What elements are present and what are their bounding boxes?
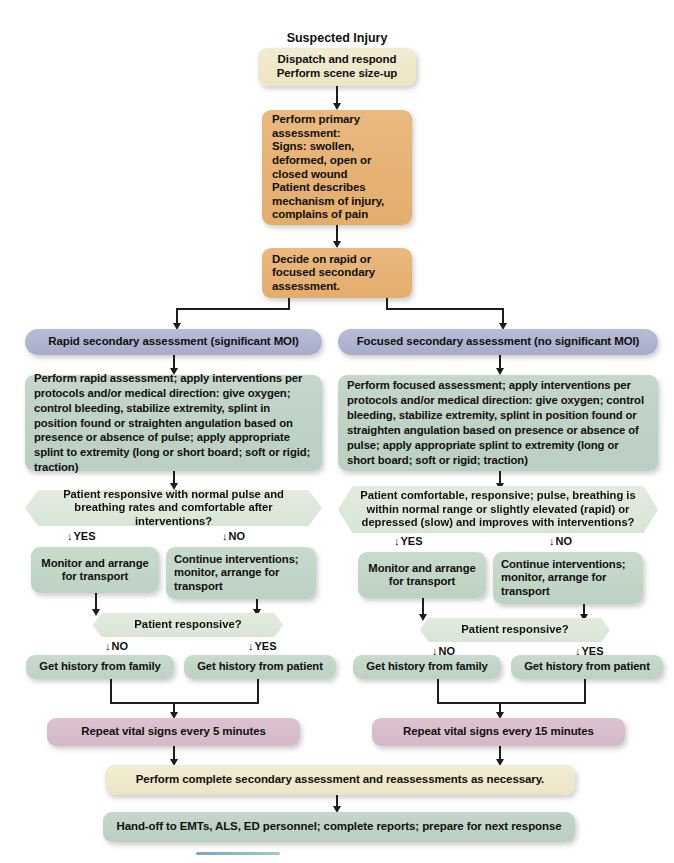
branch-label-responsive-left-yes: ↓YES: [248, 640, 277, 652]
arrowhead-monitor-left: [92, 609, 100, 616]
branch-label-rapid-yes: ↓YES: [67, 530, 96, 542]
node-continue-interventions-left: Continue interventions; monitor, arrange…: [166, 547, 316, 599]
node-repeat-vitals-left-label: Repeat vital signs every 5 minutes: [81, 725, 266, 739]
node-dispatch-respond: Dispatch and respond Perform scene size-…: [258, 48, 416, 86]
node-monitor-arrange-right: Monitor and arrange for transport: [358, 552, 486, 598]
connector-monitor-left-down: [95, 593, 97, 610]
branch-label-focused-no: ↓NO: [549, 535, 572, 547]
node-continue-interventions-right: Continue interventions; monitor, arrange…: [493, 552, 643, 604]
node-history-from-patient-right: Get history from patient: [511, 655, 663, 679]
connector-monitor-right-down: [422, 598, 424, 615]
branch-label-responsive-left-yes-text: YES: [255, 640, 277, 652]
down-arrow-icon: ↓: [394, 535, 400, 547]
connector-decide-left-drop: [176, 308, 178, 324]
decision-focused-patient-status: Patient comfortable, responsive; pulse, …: [338, 486, 658, 533]
connector-vitals-left-down: [173, 746, 175, 760]
branch-label-focused-no-text: NO: [556, 535, 573, 547]
node-handoff-label: Hand-off to EMTs, ALS, ED personnel; com…: [116, 820, 561, 834]
decision-patient-responsive-left: Patient responsive?: [93, 613, 283, 637]
connector-rapid-header-to-perform: [173, 355, 175, 369]
branch-label-rapid-yes-text: YES: [74, 530, 96, 542]
down-arrow-icon: ↓: [105, 640, 111, 652]
connector-primary-to-decide: [336, 225, 338, 242]
node-complete-secondary-assessment: Perform complete secondary assessment an…: [105, 765, 575, 795]
decision-rapid-patient-status-label: Patient responsive with normal pulse and…: [47, 488, 300, 528]
arrowhead-rapid-decision: [170, 483, 178, 490]
node-monitor-arrange-right-label: Monitor and arrange for transport: [365, 562, 479, 589]
decision-patient-responsive-right-label: Patient responsive?: [461, 623, 568, 637]
node-focused-secondary-header-label: Focused secondary assessment (no signifi…: [357, 335, 640, 349]
connector-history-merge-right: [437, 702, 586, 704]
down-arrow-icon: ↓: [222, 530, 228, 542]
branch-label-responsive-left-no: ↓NO: [105, 640, 128, 652]
connector-history-family-left-down: [110, 679, 112, 703]
node-monitor-arrange-left: Monitor and arrange for transport: [31, 547, 159, 593]
node-handoff: Hand-off to EMTs, ALS, ED personnel; com…: [103, 812, 575, 842]
connector-history-merge-left: [110, 702, 259, 704]
node-history-from-patient-right-label: Get history from patient: [524, 660, 650, 673]
node-repeat-vitals-right-label: Repeat vital signs every 15 minutes: [403, 725, 594, 739]
node-continue-interventions-left-label: Continue interventions; monitor, arrange…: [174, 553, 308, 593]
arrowhead-monitor-right: [419, 614, 427, 621]
branch-label-focused-yes: ↓YES: [394, 535, 423, 547]
connector-history-family-right-down: [437, 679, 439, 703]
node-perform-rapid-assessment: Perform rapid assessment; apply interven…: [25, 375, 322, 471]
node-continue-interventions-right-label: Continue interventions; monitor, arrange…: [501, 558, 635, 598]
node-history-from-family-right: Get history from family: [353, 655, 501, 679]
node-repeat-vitals-right: Repeat vital signs every 15 minutes: [372, 718, 625, 746]
connector-focused-header-to-perform: [499, 355, 501, 369]
diagram-title: Suspected Injury: [237, 31, 437, 45]
node-perform-focused-assessment-label: Perform focused assessment; apply interv…: [347, 378, 649, 467]
down-arrow-icon: ↓: [248, 640, 254, 652]
branch-label-rapid-no-text: NO: [229, 530, 246, 542]
branch-label-focused-yes-text: YES: [401, 535, 423, 547]
connector-vitals-right-down: [499, 746, 501, 760]
node-repeat-vitals-left: Repeat vital signs every 5 minutes: [47, 718, 300, 746]
connector-decide-left-horizontal: [176, 308, 290, 310]
node-primary-assessment-label: Perform primary assessment: Signs: swoll…: [272, 113, 402, 222]
node-perform-rapid-assessment-label: Perform rapid assessment; apply interven…: [34, 371, 313, 475]
branch-label-rapid-no: ↓NO: [222, 530, 245, 542]
bottom-decorative-rule: [196, 852, 280, 855]
connector-decide-right-drop: [502, 308, 504, 324]
decision-patient-responsive-left-label: Patient responsive?: [134, 618, 241, 632]
flowchart-canvas: Suspected Injury Dispatch and respond Pe…: [0, 0, 674, 863]
arrowhead-focused-perform: [496, 368, 504, 375]
arrowhead-decide: [333, 241, 341, 248]
node-perform-focused-assessment: Perform focused assessment; apply interv…: [338, 375, 658, 471]
down-arrow-icon: ↓: [67, 530, 73, 542]
arrowhead-primary: [333, 103, 341, 110]
node-complete-secondary-assessment-label: Perform complete secondary assessment an…: [136, 773, 544, 787]
connector-history-patient-right-down: [584, 679, 586, 703]
node-history-from-patient-left: Get history from patient: [184, 655, 336, 679]
decision-rapid-patient-status: Patient responsive with normal pulse and…: [25, 490, 322, 526]
decision-focused-patient-status-label: Patient comfortable, responsive; pulse, …: [360, 489, 636, 529]
branch-label-responsive-left-no-text: NO: [112, 640, 129, 652]
node-rapid-secondary-header-label: Rapid secondary assessment (significant …: [48, 335, 299, 349]
node-primary-assessment: Perform primary assessment: Signs: swoll…: [262, 110, 412, 225]
decision-patient-responsive-right: Patient responsive?: [420, 618, 610, 642]
node-rapid-secondary-header: Rapid secondary assessment (significant …: [25, 329, 322, 355]
node-history-from-family-left-label: Get history from family: [39, 660, 160, 673]
node-monitor-arrange-left-label: Monitor and arrange for transport: [38, 557, 152, 584]
node-focused-secondary-header: Focused secondary assessment (no signifi…: [338, 329, 658, 355]
node-decide-assessment: Decide on rapid or focused secondary ass…: [262, 248, 412, 298]
down-arrow-icon: ↓: [549, 535, 555, 547]
connector-history-patient-left-down: [257, 679, 259, 703]
node-history-from-patient-left-label: Get history from patient: [197, 660, 323, 673]
node-history-from-family-right-label: Get history from family: [366, 660, 487, 673]
node-decide-assessment-label: Decide on rapid or focused secondary ass…: [272, 253, 402, 294]
node-history-from-family-left: Get history from family: [26, 655, 174, 679]
node-dispatch-respond-label: Dispatch and respond Perform scene size-…: [277, 53, 398, 80]
connector-dispatch-to-primary: [336, 86, 338, 104]
connector-decide-right-horizontal: [386, 308, 504, 310]
